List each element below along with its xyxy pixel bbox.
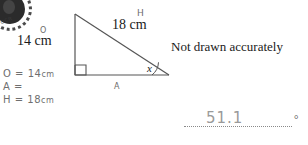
angle-label: x xyxy=(147,62,152,74)
right-angle-marker-icon xyxy=(75,65,86,75)
worksheet-page: OCR 14 cm 18 cm x Not drawn accurately O… xyxy=(0,0,308,145)
annotation-adjacent-marker: A xyxy=(114,82,119,91)
note-equals: = xyxy=(15,68,24,79)
note-unit: cm xyxy=(41,96,54,105)
note-label: H xyxy=(3,94,11,105)
handwritten-working-notes: O = 14cm A = H = 18cm xyxy=(3,68,55,107)
note-equals: = xyxy=(15,94,24,105)
note-line-hypotenuse: H = 18cm xyxy=(3,94,55,107)
annotation-opposite-marker: O xyxy=(40,26,46,35)
not-drawn-accurately-notice: Not drawn accurately xyxy=(171,39,283,55)
note-label: O xyxy=(3,68,11,79)
annotation-hypotenuse-marker: H xyxy=(137,8,144,18)
note-line-adjacent: A = xyxy=(3,81,55,94)
degree-symbol: ° xyxy=(294,113,298,125)
note-unit: cm xyxy=(41,70,54,79)
answer-area[interactable]: 51.1 ° xyxy=(184,112,296,136)
vertical-side-label: 14 cm xyxy=(17,33,52,49)
note-value: 14 xyxy=(28,68,42,79)
note-line-opposite: O = 14cm xyxy=(3,68,55,81)
answer-value[interactable]: 51.1 xyxy=(206,109,243,127)
note-value: 18 xyxy=(27,94,41,105)
note-equals: = xyxy=(14,81,23,92)
note-label: A xyxy=(3,81,10,92)
hypotenuse-label: 18 cm xyxy=(112,17,147,33)
